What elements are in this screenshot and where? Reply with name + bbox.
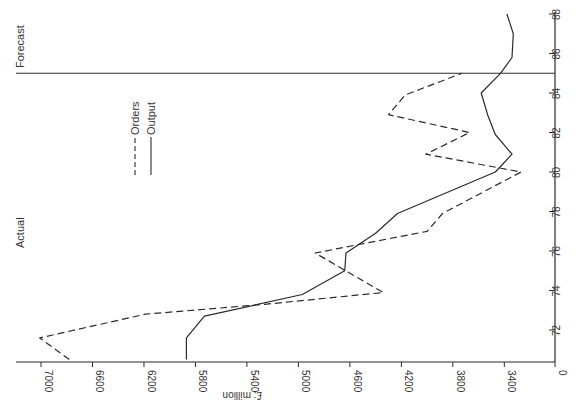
chart-legend: Orders Output (129, 101, 157, 175)
value-tick-label: 3400 (506, 370, 517, 393)
value-tick-label: 3800 (455, 370, 466, 393)
value-axis-label: £: million (223, 390, 262, 401)
series-orders-line (40, 73, 521, 359)
value-tick-label: 6200 (146, 370, 157, 393)
year-tick-label: 72 (551, 324, 562, 336)
chart-axes: 7000660062005800540050004600420038003400… (16, 8, 568, 392)
year-tick-label: 84 (551, 87, 562, 99)
year-tick-label: 86 (551, 48, 562, 60)
legend-output-label: Output (145, 102, 157, 135)
year-tick-label: 82 (551, 127, 562, 139)
value-tick-label: 4600 (352, 370, 363, 393)
series-output-line (186, 14, 513, 360)
value-tick-label: 6600 (94, 370, 105, 393)
value-tick-label: 0 (557, 370, 568, 376)
value-tick-label: 7000 (43, 370, 54, 393)
value-tick-label: 5800 (197, 370, 208, 393)
actual-label: Actual (14, 217, 26, 248)
year-tick-label: 76 (551, 245, 562, 257)
line-chart: 7000660062005800540050004600420038003400… (0, 0, 582, 404)
chart-series (40, 14, 521, 360)
year-tick-label: 88 (551, 8, 562, 20)
value-tick-label: 4200 (403, 370, 414, 393)
year-tick-label: 80 (551, 166, 562, 178)
year-tick-label: 74 (551, 285, 562, 297)
value-tick-label: 5400 (249, 370, 260, 393)
year-tick-label: 78 (551, 206, 562, 218)
legend-orders-label: Orders (129, 101, 141, 135)
value-tick-label: 5000 (300, 370, 311, 393)
forecast-label: Forecast (14, 25, 26, 68)
